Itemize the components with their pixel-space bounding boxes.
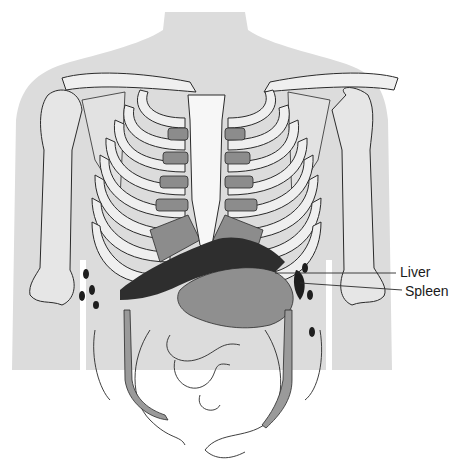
- anatomy-figure: [0, 0, 463, 470]
- label-spleen: Spleen: [405, 284, 449, 298]
- label-liver: Liver: [400, 265, 430, 279]
- arm-gap-right: [326, 260, 332, 370]
